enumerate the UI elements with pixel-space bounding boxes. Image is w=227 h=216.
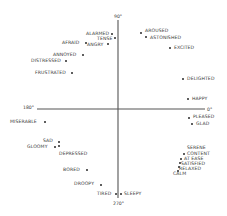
point-annoyed	[82, 54, 84, 56]
label-calm: CALM	[173, 171, 186, 176]
point-at-ease	[180, 158, 182, 160]
label-afraid: AFRAID	[62, 40, 80, 45]
axis-label-90: 90°	[114, 14, 122, 19]
point-pleased	[188, 117, 190, 119]
point-happy	[187, 98, 189, 100]
point-bored	[86, 169, 88, 171]
point-droopy	[100, 184, 102, 186]
point-frustrated	[71, 72, 73, 74]
point-delighted	[182, 78, 184, 80]
point-sad	[58, 141, 60, 143]
label-happy: HAPPY	[192, 96, 207, 101]
label-depressed: DEPRESSED	[59, 151, 88, 156]
label-astonished: ASTONISHED	[150, 35, 181, 40]
point-content	[183, 153, 185, 155]
point-glad	[191, 123, 193, 125]
axis-label-0: 0°	[207, 107, 212, 112]
point-excited	[169, 47, 171, 49]
label-sad: SAD	[43, 138, 53, 143]
label-sleepy: SLEEPY	[124, 191, 141, 196]
label-angry: ANGRY	[87, 42, 103, 47]
label-gloomy: GLOOMY	[27, 144, 48, 149]
label-glad: GLAD	[196, 121, 210, 126]
label-distressed: DISTRESSED	[31, 58, 61, 63]
point-tense	[114, 37, 116, 39]
label-aroused: AROUSED	[145, 28, 169, 33]
label-pleased: PLEASED	[193, 114, 215, 119]
label-bored: BORED	[63, 167, 80, 172]
axis-label-180: 180°	[23, 105, 34, 110]
point-gloomy-2	[54, 146, 56, 148]
point-aroused	[140, 32, 142, 34]
label-droopy: DROOPY	[74, 181, 94, 186]
circumplex-chart: 90° 180° 0° 270° ALARMED TENSE AFRAID AN…	[0, 0, 227, 216]
label-frustrated: FRUSTRATED	[35, 70, 66, 75]
label-miserable: MISERABLE	[10, 119, 37, 124]
point-angry	[107, 43, 109, 45]
point-sleepy	[120, 193, 122, 195]
label-annoyed: ANNOYED	[53, 52, 77, 57]
label-excited: EXCITED	[174, 45, 195, 50]
label-tired: TIRED	[96, 191, 112, 196]
axis-label-270: 270°	[113, 201, 124, 206]
point-tired	[115, 193, 117, 195]
point-astonished	[145, 36, 147, 38]
label-delighted: DELIGHTED	[187, 76, 215, 81]
point-miserable	[44, 121, 46, 123]
label-serene: SERENE	[187, 145, 206, 150]
point-alarmed	[111, 33, 113, 35]
label-tense: TENSE	[96, 36, 112, 41]
point-gloomy	[58, 145, 60, 147]
point-distressed	[65, 60, 67, 62]
